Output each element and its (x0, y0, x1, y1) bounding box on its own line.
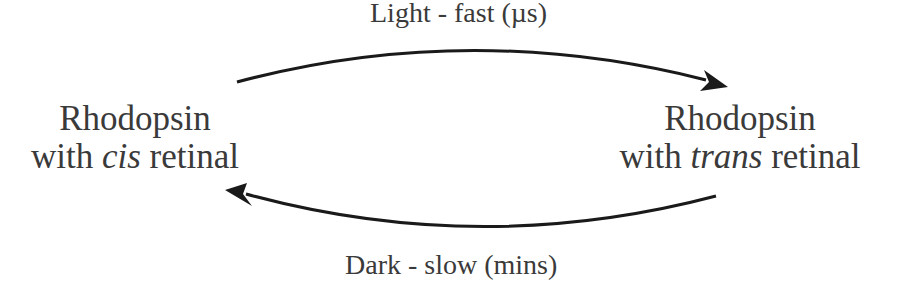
bottom-arrow-label: Dark - slow (mins) (345, 250, 557, 280)
arrows-layer (0, 0, 898, 286)
light-arrow-icon (237, 50, 728, 91)
dark-arrow-icon (225, 183, 716, 227)
